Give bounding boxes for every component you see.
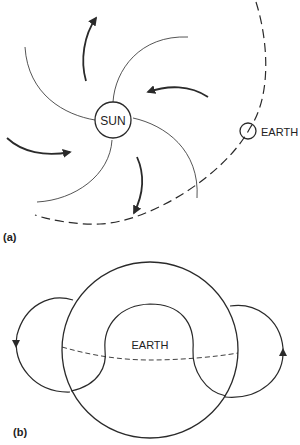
panel-a-label: (a) (3, 231, 17, 243)
right-arrow-up-icon (279, 348, 287, 356)
earth-label-a: EARTH (261, 126, 298, 138)
earth-label-b: EARTH (131, 339, 168, 351)
diagram-canvas: SUN EARTH (a) EARTH (b) (0, 0, 300, 445)
earth-orbit (35, 2, 266, 224)
panel-b-label: (b) (13, 426, 27, 438)
arrow-up-left (83, 18, 96, 81)
left-arrow-down-icon (12, 340, 20, 348)
panel-b: EARTH (b) (12, 262, 287, 438)
sun-label: SUN (100, 114, 125, 128)
panel-a: SUN EARTH (a) (3, 2, 298, 243)
right-loop (225, 305, 283, 397)
left-loop (16, 298, 73, 392)
arrow-down (134, 157, 142, 213)
arrow-left-in (7, 138, 70, 154)
arrow-right-in (148, 87, 208, 97)
